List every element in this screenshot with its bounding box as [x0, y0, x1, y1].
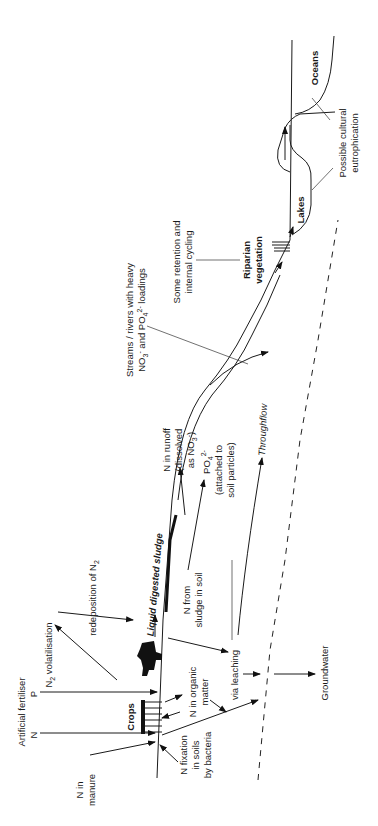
svg-text:Riparian: Riparian — [241, 241, 252, 279]
svg-text:N in organic: N in organic — [187, 666, 198, 717]
leader-streams — [147, 326, 248, 364]
label-crops: Crops — [125, 703, 136, 730]
arrow-runoff — [180, 468, 185, 515]
svg-text:soil particles): soil particles) — [225, 442, 236, 497]
arrow-n-fixation — [160, 745, 178, 762]
svg-text:(attached to: (attached to — [213, 445, 224, 495]
label-n-organic-matter: N in organic matter — [187, 666, 210, 717]
cow-icon — [137, 641, 162, 676]
label-po4: PO42- (attached to soil particles) — [200, 442, 236, 497]
label-n-in-manure: N in manure — [74, 774, 97, 806]
label-n-in-runoff: N in runoff (dissolved as NO3-) — [161, 428, 198, 472]
arrow-sludge-soil — [168, 638, 228, 652]
svg-text:internal cycling: internal cycling — [183, 231, 194, 294]
lake-inner-bank — [278, 112, 336, 172]
svg-text:manure: manure — [86, 774, 97, 806]
svg-text:in soils: in soils — [190, 740, 201, 769]
label-n2-volatilisation: N2 volatilisation — [43, 622, 56, 687]
arrow-organic-down — [162, 712, 180, 718]
arrow-leaching-organic — [162, 700, 258, 735]
nutrient-flow-diagram: N in manure Artificial fertiliser N P Cr… — [0, 0, 378, 826]
svg-text:N fixation: N fixation — [178, 735, 189, 775]
label-via-leaching: via leaching — [229, 650, 240, 700]
ground-surface-line — [157, 40, 292, 778]
diagram: N in manure Artificial fertiliser N P Cr… — [0, 0, 378, 826]
sludge-band — [166, 515, 176, 612]
svg-text:by bacteria: by bacteria — [202, 731, 213, 778]
svg-text:Streams / rivers with heavy: Streams / rivers with heavy — [124, 263, 135, 377]
label-riparian-vegetation: Riparian vegetation — [241, 236, 264, 284]
svg-text:sludge in soil: sludge in soil — [193, 573, 204, 628]
svg-text:(dissolved: (dissolved — [173, 429, 184, 472]
label-streams-rivers: Streams / rivers with heavy NO3- and PO4… — [124, 263, 149, 377]
svg-text:as NO3-): as NO3-) — [185, 432, 198, 468]
arrow-stream — [210, 352, 268, 385]
arrow-n2-volatilisation — [55, 625, 117, 680]
svg-text:Possible cultural: Possible cultural — [337, 108, 348, 177]
arrow-organic-up — [165, 695, 182, 702]
svg-text:NO3- and PO42- loadings: NO3- and PO42- loadings — [136, 268, 149, 372]
label-fertiliser-p: P — [28, 691, 39, 697]
label-fertiliser-n: N — [28, 731, 39, 738]
label-eutrophication: Possible cultural eutrophication — [337, 108, 360, 177]
svg-text:N in runoff: N in runoff — [161, 428, 172, 472]
leader-eutrophication-ocean — [312, 98, 330, 120]
label-n-from-sludge: N from sludge in soil — [181, 573, 204, 628]
label-liquid-digested-sludge: Liquid digested sludge — [145, 532, 165, 637]
svg-text:vegetation: vegetation — [253, 236, 264, 284]
svg-text:N in: N in — [74, 782, 85, 799]
label-groundwater: Groundwater — [319, 646, 330, 701]
label-redeposition: redeposition of N2 — [87, 560, 100, 636]
arrow-manure — [90, 742, 155, 755]
svg-text:N from: N from — [181, 586, 192, 615]
label-lakes: Lakes — [295, 197, 306, 224]
svg-text:PO42-: PO42- — [200, 449, 214, 474]
label-retention: Some retention and internal cycling — [171, 221, 194, 304]
arrow-throughflow — [238, 458, 262, 635]
label-oceans: Oceans — [309, 51, 320, 85]
svg-text:eutrophication: eutrophication — [349, 113, 360, 173]
label-n-fixation: N fixation in soils by bacteria — [178, 731, 213, 778]
label-artificial-fertiliser: Artificial fertiliser — [16, 677, 27, 746]
svg-text:Some retention and: Some retention and — [171, 221, 182, 304]
arrow-organic-leaching — [210, 700, 226, 712]
arrow-po4 — [188, 480, 204, 570]
leader-eutrophication-lake — [312, 168, 333, 190]
svg-text:matter: matter — [199, 679, 210, 706]
label-throughflow: Throughflow — [256, 402, 269, 456]
